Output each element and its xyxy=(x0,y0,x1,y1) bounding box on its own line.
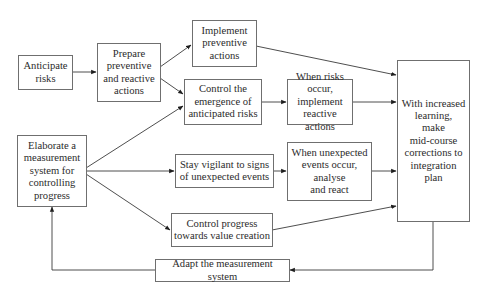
arrow-prepare-to-implement xyxy=(160,45,191,67)
arrow-learning-to-adapt xyxy=(290,221,433,270)
node-implement-preventive: Implement preventive actions xyxy=(192,20,257,67)
arrow-elaborate-to-control-progress xyxy=(86,174,170,230)
node-prepare-actions: Prepare preventive and reactive actions xyxy=(97,43,161,102)
node-anticipate-risks: Anticipate risks xyxy=(18,55,73,90)
node-risks-occur: When risks occur, implement reactive act… xyxy=(287,79,353,125)
node-unexpected-occur: When unexpected events occur, analyse an… xyxy=(287,142,372,201)
arrow-adapt-to-elaborate xyxy=(52,207,155,270)
arrow-elaborate-to-control-emergence xyxy=(86,106,183,168)
arrow-control-progress-to-learning xyxy=(272,206,396,230)
node-adapt-measurement: Adapt the measurement system xyxy=(155,259,290,282)
node-increased-learning: With increased learning, make mid-course… xyxy=(397,60,470,222)
arrow-prepare-to-control-emergence xyxy=(160,78,183,94)
node-elaborate-measurement: Elaborate a measurement system for contr… xyxy=(17,135,87,207)
node-control-progress: Control progress towards value creation xyxy=(171,213,273,247)
node-control-emergence: Control the emergence of anticipated ris… xyxy=(184,79,262,125)
flowchart-diagram: Anticipate risks Prepare preventive and … xyxy=(0,0,485,293)
node-stay-vigilant: Stay vigilant to signs of unexpected eve… xyxy=(175,154,274,188)
